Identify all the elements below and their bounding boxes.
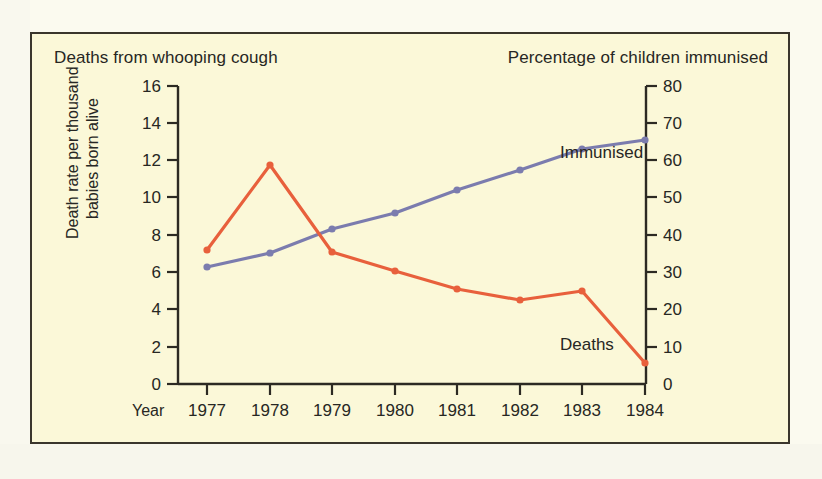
right-tick-70: 70 [663, 114, 682, 133]
x-tick-1979: 1979 [313, 401, 351, 420]
left-tick-2: 2 [152, 338, 161, 357]
left-tick-4: 4 [152, 300, 161, 319]
left-tick-0: 0 [152, 375, 161, 394]
left-tick-12: 12 [142, 151, 161, 170]
y-axis-title-line1: Death rate per thousand [64, 66, 81, 239]
x-axis-title: Year [132, 402, 165, 419]
right-tick-80: 80 [663, 77, 682, 96]
scan-edge-bottom [0, 444, 822, 479]
left-axis-tick-labels: 16 14 12 10 8 6 4 2 0 [142, 77, 161, 394]
x-axis-tick-labels: 1977 1978 1979 1980 1981 1982 1983 1984 [188, 401, 664, 420]
x-tick-1983: 1983 [563, 401, 601, 420]
x-tick-1978: 1978 [251, 401, 289, 420]
left-tick-10: 10 [142, 188, 161, 207]
left-tick-8: 8 [152, 226, 161, 245]
series-line-deaths [207, 165, 645, 363]
y-axis-title-line2: babies born alive [84, 98, 101, 219]
right-axis-ticks [646, 86, 657, 347]
x-tick-1977: 1977 [188, 401, 226, 420]
right-tick-40: 40 [663, 226, 682, 245]
x-tick-1981: 1981 [438, 401, 476, 420]
right-tick-60: 60 [663, 151, 682, 170]
series-label-deaths: Deaths [560, 335, 614, 354]
left-axis-ticks [167, 86, 178, 384]
left-tick-16: 16 [142, 77, 161, 96]
left-tick-6: 6 [152, 263, 161, 282]
right-axis-tick-labels: 80 70 60 50 40 30 20 10 0 [663, 77, 682, 394]
x-tick-1984: 1984 [626, 401, 664, 420]
series-label-immunised: Immunised [560, 143, 643, 162]
right-tick-10: 10 [663, 338, 682, 357]
x-tick-1980: 1980 [376, 401, 414, 420]
right-tick-0: 0 [663, 375, 672, 394]
x-tick-1982: 1982 [501, 401, 539, 420]
right-tick-50: 50 [663, 188, 682, 207]
left-tick-14: 14 [142, 114, 161, 133]
x-axis-ticks [207, 384, 645, 395]
figure-frame: Deaths from whooping cough Percentage of… [30, 32, 790, 444]
scan-edge-left [0, 0, 30, 479]
right-tick-20: 20 [663, 300, 682, 319]
chart-plot: 16 14 12 10 8 6 4 2 0 80 70 60 50 40 [32, 34, 788, 442]
right-tick-30: 30 [663, 263, 682, 282]
